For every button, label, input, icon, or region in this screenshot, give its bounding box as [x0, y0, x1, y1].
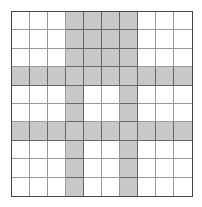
shaded-cell	[156, 122, 174, 140]
empty-cell	[12, 30, 30, 48]
empty-cell	[84, 141, 102, 159]
shaded-cell	[120, 49, 138, 67]
empty-cell	[156, 159, 174, 177]
empty-cell	[138, 49, 156, 67]
empty-cell	[48, 12, 66, 30]
empty-cell	[84, 104, 102, 122]
empty-cell	[48, 86, 66, 104]
empty-cell	[30, 141, 48, 159]
shaded-cell	[30, 67, 48, 85]
empty-cell	[84, 178, 102, 196]
shaded-cell	[66, 86, 84, 104]
empty-cell	[138, 104, 156, 122]
empty-cell	[174, 30, 192, 48]
shaded-cell	[120, 30, 138, 48]
empty-cell	[138, 178, 156, 196]
empty-cell	[156, 86, 174, 104]
shaded-cell	[66, 104, 84, 122]
empty-cell	[174, 178, 192, 196]
empty-cell	[12, 12, 30, 30]
empty-cell	[48, 178, 66, 196]
empty-cell	[84, 159, 102, 177]
empty-cell	[102, 178, 120, 196]
empty-cell	[156, 141, 174, 159]
empty-cell	[174, 141, 192, 159]
shaded-cell	[66, 30, 84, 48]
empty-cell	[138, 30, 156, 48]
empty-cell	[12, 86, 30, 104]
shaded-cell	[102, 122, 120, 140]
shaded-cell	[66, 159, 84, 177]
empty-cell	[102, 86, 120, 104]
empty-cell	[174, 49, 192, 67]
empty-cell	[102, 141, 120, 159]
shaded-cell	[120, 159, 138, 177]
shaded-cell	[102, 30, 120, 48]
empty-cell	[30, 159, 48, 177]
empty-cell	[30, 178, 48, 196]
shaded-cell	[156, 67, 174, 85]
empty-cell	[30, 104, 48, 122]
empty-cell	[48, 141, 66, 159]
shaded-cell	[66, 178, 84, 196]
shaded-cell	[120, 104, 138, 122]
empty-cell	[30, 49, 48, 67]
empty-cell	[84, 86, 102, 104]
empty-cell	[12, 159, 30, 177]
empty-cell	[156, 104, 174, 122]
empty-cell	[12, 141, 30, 159]
shaded-cell	[48, 67, 66, 85]
shaded-cell	[120, 86, 138, 104]
empty-cell	[174, 104, 192, 122]
empty-cell	[174, 86, 192, 104]
shaded-cell	[174, 67, 192, 85]
shaded-cell	[30, 122, 48, 140]
shaded-cell	[66, 67, 84, 85]
empty-cell	[12, 178, 30, 196]
shaded-cell	[138, 67, 156, 85]
shaded-cell	[120, 67, 138, 85]
empty-cell	[156, 178, 174, 196]
empty-cell	[174, 159, 192, 177]
shaded-cell	[84, 12, 102, 30]
shaded-cell	[84, 122, 102, 140]
empty-cell	[30, 30, 48, 48]
empty-cell	[156, 30, 174, 48]
shaded-cell	[102, 67, 120, 85]
empty-cell	[48, 159, 66, 177]
shaded-cell	[66, 141, 84, 159]
empty-cell	[12, 104, 30, 122]
shaded-cell	[120, 12, 138, 30]
shaded-cell	[120, 122, 138, 140]
empty-cell	[102, 159, 120, 177]
shaded-cell	[120, 141, 138, 159]
shaded-cell	[84, 67, 102, 85]
empty-cell	[174, 12, 192, 30]
empty-cell	[30, 12, 48, 30]
empty-cell	[138, 86, 156, 104]
shaded-cell	[102, 12, 120, 30]
empty-cell	[48, 104, 66, 122]
shaded-cell	[120, 178, 138, 196]
empty-cell	[138, 12, 156, 30]
empty-cell	[48, 49, 66, 67]
shaded-cell	[138, 122, 156, 140]
empty-cell	[102, 104, 120, 122]
empty-cell	[30, 86, 48, 104]
shaded-cell	[102, 49, 120, 67]
shaded-cell	[66, 12, 84, 30]
empty-cell	[138, 159, 156, 177]
shaded-cell	[12, 122, 30, 140]
shaded-grid	[11, 11, 193, 197]
shaded-cell	[84, 49, 102, 67]
shaded-cell	[174, 122, 192, 140]
shaded-cell	[84, 30, 102, 48]
empty-cell	[156, 49, 174, 67]
shaded-cell	[66, 122, 84, 140]
empty-cell	[156, 12, 174, 30]
shaded-cell	[66, 49, 84, 67]
shaded-cell	[48, 122, 66, 140]
empty-cell	[48, 30, 66, 48]
empty-cell	[138, 141, 156, 159]
shaded-cell	[12, 67, 30, 85]
